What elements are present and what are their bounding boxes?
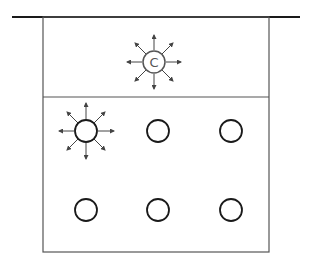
particle <box>220 120 242 142</box>
diagram-canvas: C <box>0 0 310 265</box>
particle <box>147 120 169 142</box>
particle-grid <box>75 120 242 221</box>
particle <box>220 199 242 221</box>
particle-emitting <box>75 120 97 142</box>
center-label: C <box>149 55 158 70</box>
center-emitter: C <box>127 35 181 89</box>
particle <box>147 199 169 221</box>
particle <box>75 199 97 221</box>
